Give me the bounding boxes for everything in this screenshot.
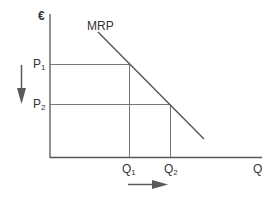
x-axis-label: Q: [253, 163, 262, 175]
y-axis-label: €: [38, 10, 45, 22]
quantity-increase-arrow: [128, 180, 168, 189]
mrp-curve-label: MRP: [87, 20, 114, 32]
p2-label: P2: [33, 98, 45, 112]
price-decrease-arrow: [17, 65, 26, 104]
q2-label: Q2: [164, 163, 178, 177]
q1-label: Q1: [122, 163, 136, 177]
p1-label: P1: [33, 58, 45, 72]
mrp-curve: [98, 32, 204, 139]
